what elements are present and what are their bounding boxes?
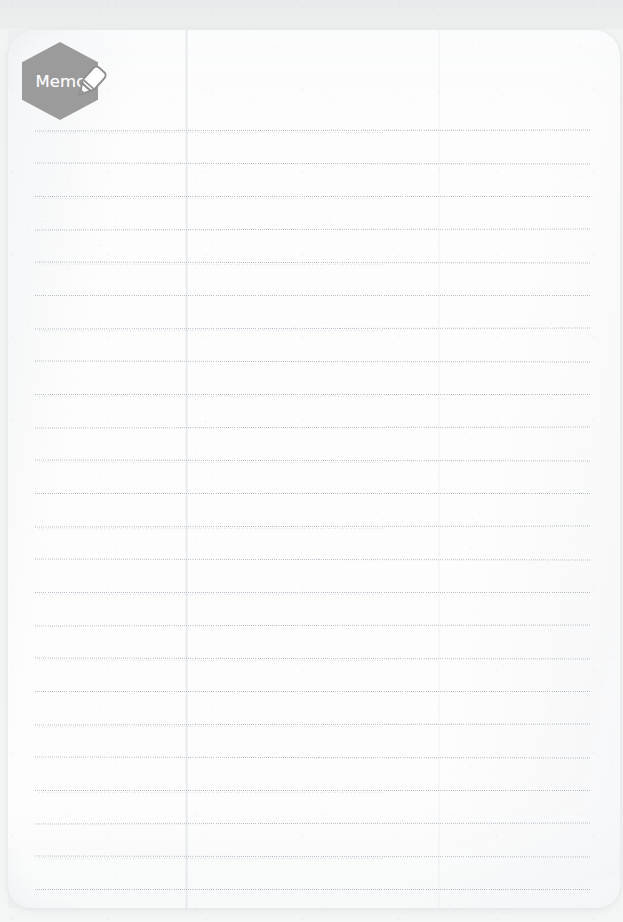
ruled-line[interactable] bbox=[35, 526, 590, 528]
ruled-line[interactable] bbox=[35, 790, 590, 791]
ruled-line[interactable] bbox=[35, 724, 590, 726]
ruled-line[interactable] bbox=[35, 361, 590, 363]
ruled-line[interactable] bbox=[35, 856, 590, 858]
ruled-line[interactable] bbox=[35, 262, 590, 264]
ruled-lines-group bbox=[8, 30, 620, 908]
memo-badge[interactable]: Memo bbox=[22, 42, 98, 120]
ruled-line[interactable] bbox=[35, 658, 590, 660]
ruled-line[interactable] bbox=[35, 889, 590, 890]
ruled-line[interactable] bbox=[35, 130, 590, 132]
ruled-line[interactable] bbox=[35, 163, 590, 165]
ruled-line[interactable] bbox=[35, 493, 590, 494]
ruled-line[interactable] bbox=[35, 691, 590, 692]
ruled-line[interactable] bbox=[35, 757, 590, 759]
ruled-line[interactable] bbox=[35, 394, 590, 395]
memo-page-root: Memo bbox=[0, 0, 623, 922]
sheet-corner-shade-bottom-left bbox=[8, 848, 74, 908]
ruled-line[interactable] bbox=[35, 823, 590, 825]
ruled-line[interactable] bbox=[35, 229, 590, 231]
ruled-line[interactable] bbox=[35, 559, 590, 561]
ruled-line[interactable] bbox=[35, 592, 590, 593]
marker-pen-icon bbox=[69, 62, 111, 104]
paper-sheet[interactable]: Memo bbox=[8, 30, 620, 908]
ruled-line[interactable] bbox=[35, 328, 590, 330]
ruled-line[interactable] bbox=[35, 427, 590, 429]
paper-fold-crease bbox=[185, 30, 188, 908]
ruled-line[interactable] bbox=[35, 295, 590, 296]
ruled-line[interactable] bbox=[35, 196, 590, 197]
ruled-line[interactable] bbox=[35, 460, 590, 462]
ruled-line[interactable] bbox=[35, 625, 590, 627]
paper-fold-crease-secondary bbox=[438, 30, 440, 908]
paper-grain-overlay bbox=[8, 30, 620, 908]
